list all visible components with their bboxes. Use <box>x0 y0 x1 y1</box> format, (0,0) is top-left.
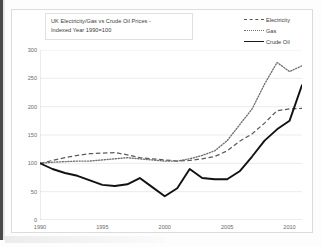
dashed-line-key <box>243 15 265 25</box>
x-tick-label: 2005 <box>214 224 240 230</box>
y-tick-label: 150 <box>17 132 37 138</box>
left-edge-bar-inner <box>3 0 5 240</box>
y-tick-label: 300 <box>17 47 37 53</box>
page-subtitle: Indexed Year 1990=100 <box>51 26 187 35</box>
y-tick-label: 0 <box>17 217 37 223</box>
solid-line-key <box>243 37 265 47</box>
chart-canvas <box>40 50 302 220</box>
legend-label-electricity: Electricity <box>265 17 290 23</box>
legend-item-gas[interactable]: Gas <box>243 25 313 36</box>
dotted-line-key <box>243 26 265 36</box>
y-tick-label: 200 <box>17 104 37 110</box>
legend-label-crude-oil: Crude Oil <box>265 39 290 45</box>
gridlines <box>40 50 302 220</box>
y-tick-label: 50 <box>17 189 37 195</box>
chart-screenshot: UK Electricity/Gas vs Crude Oil Prices -… <box>0 0 322 247</box>
x-tick-label: 2010 <box>277 224 303 230</box>
chart-legend: Electricity Gas Crude Oil <box>243 14 313 47</box>
series-layer <box>40 62 302 196</box>
x-tick-label: 2000 <box>152 224 178 230</box>
series-line-electricity <box>40 108 302 163</box>
legend-item-crude-oil[interactable]: Crude Oil <box>243 36 313 47</box>
series-line-gas <box>40 62 302 163</box>
footer-artifact <box>5 236 165 243</box>
chart-title-box: UK Electricity/Gas vs Crude Oil Prices -… <box>45 13 193 40</box>
x-tick-label: 1995 <box>89 224 115 230</box>
y-tick-label: 250 <box>17 75 37 81</box>
y-tick-label: 100 <box>17 160 37 166</box>
plot-area: 050100150200250300 19901995200020052010 <box>40 50 302 220</box>
legend-label-gas: Gas <box>265 28 276 34</box>
page-title: UK Electricity/Gas vs Crude Oil Prices - <box>51 17 187 26</box>
legend-item-electricity[interactable]: Electricity <box>243 14 313 25</box>
series-line-crude-oil <box>40 85 302 196</box>
x-tick-label: 1990 <box>27 224 53 230</box>
